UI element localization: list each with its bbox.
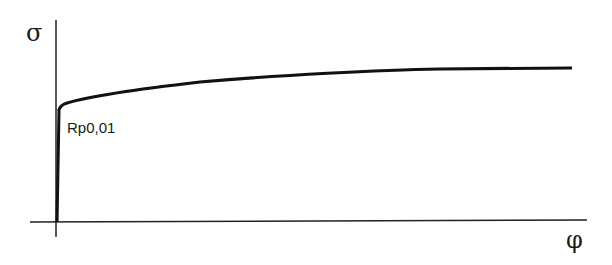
x-axis-label: φ bbox=[566, 226, 583, 254]
y-axis-label: σ bbox=[26, 19, 42, 47]
yield-point-label: Rp0,01 bbox=[67, 119, 115, 136]
x-axis bbox=[30, 220, 587, 222]
flow-curve-chart: σ φ Rp0,01 bbox=[0, 0, 612, 265]
flow-curve bbox=[59, 68, 573, 111]
